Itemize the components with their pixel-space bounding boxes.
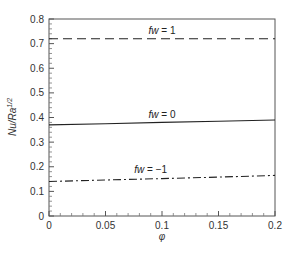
x-axis-label: φ: [159, 231, 166, 242]
series-labels: fw = 1fw = 0fw = −1: [134, 25, 176, 175]
x-tick-label: 0.1: [155, 220, 169, 231]
y-tick-label: 0.8: [30, 14, 44, 25]
series-line-2: [49, 175, 275, 181]
x-tick-label: 0.15: [209, 220, 229, 231]
x-tick-label: 0: [46, 220, 52, 231]
svg-text:Nu/Ra1/2: Nu/Ra1/2: [6, 98, 18, 136]
y-tick-label: 0.7: [30, 38, 44, 49]
y-axis-label-main: Nu/Ra: [7, 107, 18, 136]
x-axis: 00.050.10.150.2: [46, 211, 282, 231]
y-axis-label: Nu/Ra1/2: [6, 98, 18, 136]
series-label-1: fw = 0: [149, 109, 176, 120]
y-tick-label: 0.2: [30, 161, 44, 172]
x-tick-label: 0.05: [96, 220, 116, 231]
x-tick-label: 0.2: [268, 220, 282, 231]
series-label-0: fw = 1: [149, 25, 176, 36]
y-axis: 00.10.20.30.40.50.60.70.8: [30, 14, 54, 222]
y-tick-label: 0.4: [30, 112, 44, 123]
y-axis-label-sup: 1/2: [6, 98, 13, 108]
series-label-2: fw = −1: [134, 164, 167, 175]
series-line-1: [49, 120, 275, 125]
y-tick-label: 0: [38, 211, 44, 222]
y-tick-label: 0.6: [30, 63, 44, 74]
y-tick-label: 0.1: [30, 186, 44, 197]
chart: 00.10.20.30.40.50.60.70.8 00.050.10.150.…: [0, 0, 296, 255]
y-tick-label: 0.5: [30, 87, 44, 98]
y-tick-label: 0.3: [30, 137, 44, 148]
